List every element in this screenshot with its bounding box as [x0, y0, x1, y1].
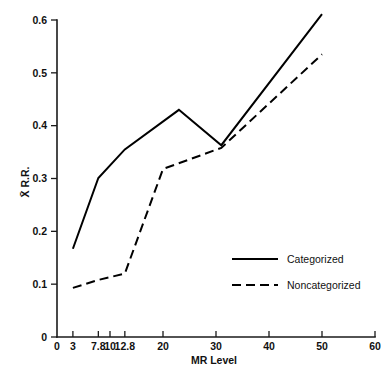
x-tick-label: 60	[369, 340, 381, 352]
x-tick-label: 30	[210, 340, 222, 352]
y-axis-title: X̄ R.R.	[19, 166, 31, 197]
series-line-categorized	[73, 14, 322, 249]
y-tick-label: 0.2	[32, 225, 47, 237]
chart-legend: CategorizedNoncategorized	[232, 253, 361, 291]
x-axis-title-text: MR Level	[191, 354, 237, 366]
x-tick-label: 12.8	[115, 340, 136, 352]
x-tick-label: 50	[316, 340, 328, 352]
y-tick-label: 0.1	[32, 278, 47, 290]
y-axis-ticks: 00.10.20.30.40.50.6	[32, 14, 57, 343]
x-tick-label: 3	[70, 340, 76, 352]
x-tick-label: 0	[54, 340, 60, 352]
x-tick-label: 20	[157, 340, 169, 352]
y-tick-label: 0.3	[32, 172, 47, 184]
y-axis-title-text: X̄ R.R.	[19, 166, 31, 197]
x-tick-label: 40	[263, 340, 275, 352]
y-tick-label: 0.4	[32, 119, 47, 131]
y-tick-label: 0.5	[32, 67, 47, 79]
legend-label-categorized: Categorized	[287, 253, 344, 265]
y-tick-label: 0.6	[32, 14, 47, 26]
legend-label-noncategorized: Noncategorized	[287, 279, 361, 291]
data-series-group	[73, 14, 322, 288]
line-chart-svg: 00.10.20.30.40.50.6 037.81012.8203040506…	[0, 0, 392, 377]
chart-figure: 00.10.20.30.40.50.6 037.81012.8203040506…	[0, 0, 392, 377]
x-axis-ticks: 037.81012.82030405060	[54, 331, 381, 352]
y-tick-label: 0	[41, 331, 47, 343]
series-line-noncategorized	[73, 54, 322, 288]
